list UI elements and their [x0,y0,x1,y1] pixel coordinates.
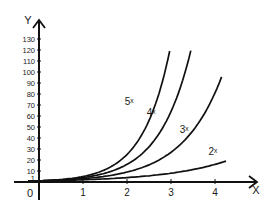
y-tick-label: 110 [23,57,35,66]
x-tick-label: 3 [168,187,174,198]
y-tick-label: 120 [22,46,35,55]
curve-label: 4ˣ [147,107,157,118]
x-tick-label: 2 [124,187,130,198]
x-tick-label: 1 [80,187,86,198]
y-tick-label: 50 [27,123,35,132]
curve-labels: 5ˣ4ˣ3ˣ2ˣ [125,96,218,157]
y-tick-label: 40 [27,134,35,143]
y-tick-label: 10 [27,167,35,176]
y-tick-label: 60 [27,112,35,121]
y-tick-label: 80 [27,90,35,99]
axes: XY012341102030405060708090100110120130 [14,14,260,200]
y-tick-label: 30 [27,145,35,154]
x-tick-label: 4 [212,187,218,198]
y-axis-label: Y [24,14,32,26]
curve-label: 5ˣ [125,96,135,107]
origin-label: 0 [27,187,33,199]
y-tick-label: 20 [27,156,35,165]
y-tick-label: 70 [27,101,35,110]
x-axis-label: X [252,184,260,196]
y-tick-label: 130 [22,35,35,44]
curve-label: 3ˣ [180,124,190,135]
y-tick-label: 90 [27,79,35,88]
curves [28,51,226,182]
curve-4x [28,51,191,182]
exponential-chart: XY012341102030405060708090100110120130 5… [0,0,268,210]
curve-label: 2ˣ [208,146,218,157]
y-tick-label: 100 [22,68,35,77]
